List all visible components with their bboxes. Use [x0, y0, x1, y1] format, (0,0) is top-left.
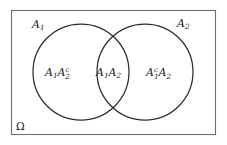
venn-diagram-canvas: A1 A2 A1Ac2 A1A2 Ac1A2 Ω	[0, 0, 227, 145]
region-label-left-only: A1Ac2	[44, 66, 70, 81]
region-mid-term1-base: A	[95, 66, 104, 79]
region-left-term1-base: A	[44, 66, 53, 79]
set-label-a2-sub: 2	[184, 22, 190, 31]
set-label-a1-base: A	[31, 18, 40, 31]
region-right-term2-sub: 2	[166, 72, 172, 81]
region-right-term1-base: A	[145, 66, 154, 79]
region-mid-term2-base: A	[108, 66, 117, 79]
venn-diagram-figure: A1 A2 A1Ac2 A1A2 Ac1A2 Ω	[0, 0, 227, 145]
set-label-a1-sub: 1	[40, 23, 45, 32]
region-left-term2-sub: 2	[64, 72, 70, 81]
set-label-a2-base: A	[176, 17, 185, 30]
region-mid-term2-sub: 2	[116, 71, 122, 80]
region-right-term2-base: A	[158, 66, 167, 79]
sample-space-label-omega: Ω	[16, 120, 25, 132]
